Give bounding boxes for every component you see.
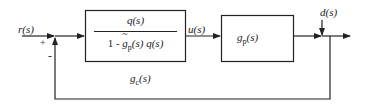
tf-denominator: 1 - gp(s) q(s) [86, 37, 185, 52]
control-signal-label: u(s) [188, 24, 205, 35]
tf-numerator: q(s) [86, 14, 185, 26]
controller-transfer-function: q(s) 1 - gp(s) q(s) [86, 11, 185, 61]
plus-sign: + [40, 38, 46, 48]
controller-label: gc(s) [130, 73, 151, 87]
reference-signal-label: r(s) [18, 24, 34, 35]
fraction-bar [94, 31, 177, 32]
gp-tilde: g [122, 37, 128, 49]
plant-label: gp(s) [237, 32, 258, 46]
minus-sign: - [48, 50, 52, 62]
disturbance-signal-label: d(s) [320, 7, 337, 18]
